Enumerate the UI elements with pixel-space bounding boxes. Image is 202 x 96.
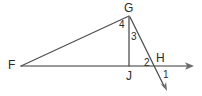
angle-label-3: 3 [131, 32, 137, 42]
vertex-label-h: H [156, 52, 165, 64]
angle-label-1: 1 [163, 70, 169, 80]
angle-label-4: 4 [119, 20, 125, 30]
geometry-canvas [0, 0, 202, 96]
geometry-figure: F G H J 1 2 3 4 [0, 0, 202, 96]
vertex-label-j: J [126, 70, 132, 82]
down-arrow-icon [160, 82, 167, 91]
angle-label-2: 2 [144, 58, 150, 68]
segment-fg-line [21, 16, 129, 66]
vertex-label-g: G [124, 2, 133, 14]
vertex-label-f: F [8, 59, 15, 71]
